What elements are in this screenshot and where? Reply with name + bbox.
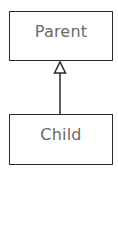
hollow-triangle-arrowhead-icon: [55, 62, 66, 73]
child-class-label: Child: [40, 125, 81, 144]
child-class-box: Child: [9, 114, 113, 165]
